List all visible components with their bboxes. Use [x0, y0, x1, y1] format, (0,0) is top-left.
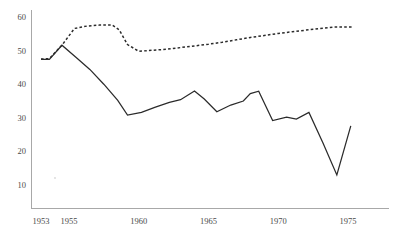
- y-tick-label: 20: [18, 146, 27, 156]
- x-tick-label: 1960: [130, 216, 147, 226]
- chart-canvas: 102030405060 195319551960196519701975: [0, 0, 396, 236]
- y-axis-tick-labels: 102030405060: [18, 12, 27, 190]
- y-tick-label: 40: [18, 79, 27, 89]
- x-tick-label: 1975: [340, 216, 357, 226]
- y-tick-label: 60: [18, 12, 27, 22]
- x-tick-label: 1955: [60, 216, 77, 226]
- y-tick-label: 50: [18, 46, 27, 56]
- x-tick-label: 1965: [200, 216, 217, 226]
- line-chart: 102030405060 195319551960196519701975: [0, 0, 396, 236]
- y-tick-label: 30: [18, 113, 27, 123]
- axes: [32, 10, 390, 209]
- solid-series-line: [41, 45, 351, 175]
- y-tick-label: 10: [18, 180, 27, 190]
- x-tick-label: 1953: [33, 216, 50, 226]
- plot-series-group: [41, 25, 352, 175]
- x-axis-tick-labels: 195319551960196519701975: [33, 216, 357, 226]
- dashed-series-line: [41, 25, 352, 59]
- x-tick-label: 1970: [270, 216, 287, 226]
- page-speck: [54, 177, 56, 179]
